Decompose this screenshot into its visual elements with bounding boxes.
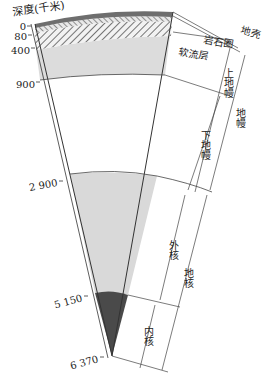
svg-text:地幔: 地幔 xyxy=(235,107,246,129)
svg-text:地核: 地核 xyxy=(183,267,194,289)
depth-axis-title: 深度(千米) xyxy=(11,0,65,19)
label-inner-core: 内核 xyxy=(143,325,154,347)
svg-text:上地幔: 上地幔 xyxy=(223,68,234,99)
depth-label-900: 900 xyxy=(16,79,35,90)
svg-text:外核: 外核 xyxy=(168,240,179,261)
label-core: 地核 xyxy=(183,267,194,289)
depth-label-2900: 2 900 xyxy=(28,177,58,193)
svg-text:内核: 内核 xyxy=(143,325,154,347)
label-lower-mantle: 下地幔 xyxy=(200,130,211,161)
depth-label-400: 400 xyxy=(11,45,30,56)
label-mantle: 地幔 xyxy=(235,107,246,129)
label-asthenosphere: 软流层 xyxy=(178,45,210,62)
label-upper-mantle: 上地幔 xyxy=(223,68,234,99)
svg-text:下地幔: 下地幔 xyxy=(200,130,211,161)
depth-label-80: 80 xyxy=(14,31,27,42)
label-crust: 地壳 xyxy=(239,23,261,40)
label-lithosphere: 岩石圈 xyxy=(203,33,235,50)
depth-label-5150: 5 150 xyxy=(53,292,84,310)
earth-interior-diagram: 深度(千米) 0 80 400 900 2 900 5 150 6 370 地壳… xyxy=(0,0,272,387)
label-outer-core: 外核 xyxy=(168,240,179,261)
depth-label-6370: 6 370 xyxy=(69,353,100,371)
outer-core-region xyxy=(70,172,157,295)
